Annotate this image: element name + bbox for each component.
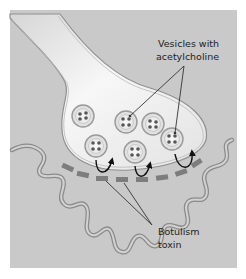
toxin-label-line1: Botulism [158,226,200,237]
leader-dot [174,132,177,135]
toxin-label-line2: toxin [158,239,182,250]
leader-dot [129,115,132,118]
neuromuscular-junction-diagram: Vesicles with acetylcholine Botulism tox… [0,0,246,279]
vesicle [115,111,137,133]
vesicle [142,113,164,135]
vesicle [161,128,183,150]
vesicle [124,141,146,163]
vesicles-label-line2: acetylcholine [156,51,219,62]
vesicle [85,135,107,157]
vesicles-label-line1: Vesicles with [158,38,219,49]
vesicle [72,105,94,127]
